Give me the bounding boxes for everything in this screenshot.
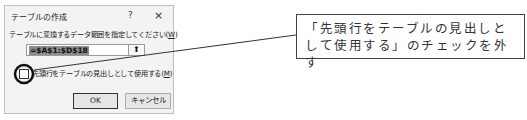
range-input-value: =$A$1:$D$18 (29, 46, 89, 55)
header-row-checkbox[interactable] (19, 69, 29, 79)
range-prompt-suffix: ) (175, 30, 178, 39)
collapse-dialog-button[interactable]: ⬆ (128, 44, 145, 56)
ok-button[interactable]: OK (73, 93, 118, 109)
cancel-button[interactable]: キャンセル (125, 93, 171, 109)
range-input[interactable]: =$A$1:$D$18 (26, 44, 129, 56)
annotation-callout: 「先頭行をテーブルの見出しとして使用する」のチェックを外す (296, 14, 525, 59)
close-icon[interactable]: × (154, 9, 163, 22)
dialog-title: テーブルの作成 (11, 11, 67, 22)
arrow-up-icon: ⬆ (133, 45, 140, 54)
header-row-checkbox-label[interactable]: 先頭行をテーブルの見出しとして使用する(M) (32, 69, 172, 79)
range-prompt-label: テーブルに変換するデータ範囲を指定してください(W) (9, 29, 178, 39)
title-bar: テーブルの作成 ? × (5, 6, 173, 26)
create-table-dialog: テーブルの作成 ? × テーブルに変換するデータ範囲を指定してください(W) =… (4, 5, 174, 114)
range-prompt-accesskey: W (168, 30, 175, 39)
checkbox-label-text: 先頭行をテーブルの見出しとして使用する( (32, 69, 164, 78)
range-prompt-text: テーブルに変換するデータ範囲を指定してください( (9, 30, 168, 39)
checkbox-label-suffix: ) (170, 69, 173, 78)
help-button[interactable]: ? (128, 10, 133, 20)
